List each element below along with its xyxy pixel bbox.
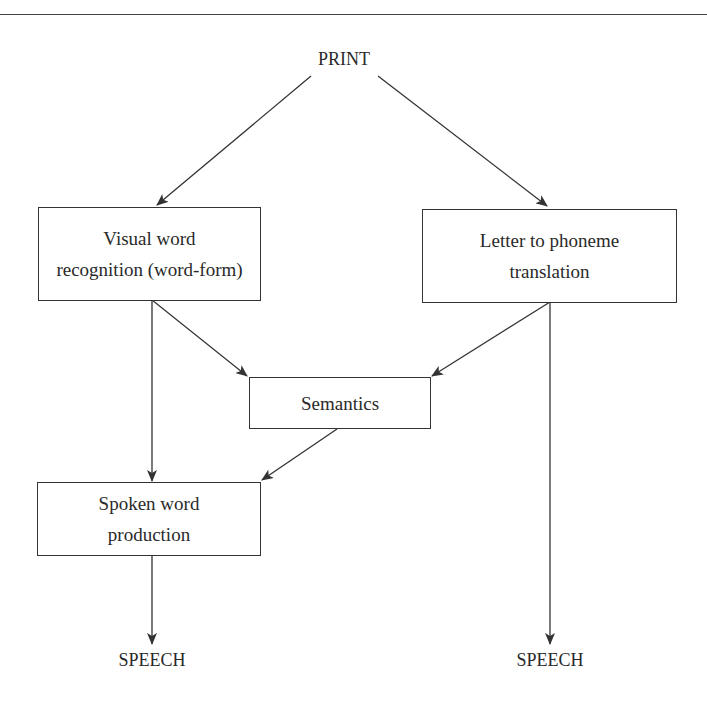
node-label-line: Semantics [301,388,379,419]
node-label-line: recognition (word-form) [56,254,242,285]
node-label-line: Spoken word [99,488,200,519]
edge-letter-phoneme-to-semantics [432,302,550,376]
node-letter-to-phoneme: Letter to phoneme translation [422,209,677,303]
edge-print-to-letter-phoneme [378,76,547,206]
node-semantics: Semantics [249,377,431,429]
node-label-line: translation [480,256,619,287]
node-label-line: Letter to phoneme [480,225,619,256]
output-speech-right: SPEECH [516,650,583,671]
node-label-line: production [99,519,200,550]
node-print: PRINT [318,49,370,70]
edge-print-to-visual-word [157,76,311,205]
edge-visual-word-to-semantics [152,300,247,376]
connector-layer [0,0,707,702]
node-spoken-word-production: Spoken word production [37,482,261,556]
edge-semantics-to-spoken-word [262,429,337,480]
node-label-line: Visual word [56,223,242,254]
output-speech-left: SPEECH [118,650,185,671]
node-visual-word-recognition: Visual word recognition (word-form) [38,207,261,301]
